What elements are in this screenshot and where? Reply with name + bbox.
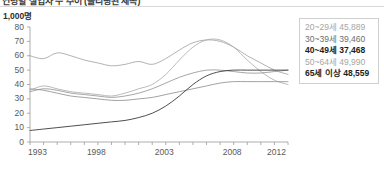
- x-axis-tick-label: 2003: [155, 147, 174, 157]
- legend-item-label: 20~29세: [305, 22, 337, 32]
- title-divider: [0, 6, 384, 7]
- legend-item-label: 65세 이상: [305, 68, 341, 78]
- y-axis-tick-label: 10: [2, 122, 24, 132]
- line-chart-svg: [0, 20, 296, 162]
- legend-item: 40~49세 37,468: [305, 45, 374, 57]
- legend-item-value: 37,468: [339, 45, 365, 55]
- legend-item-label: 30~39세: [305, 34, 337, 44]
- x-axis-tick-label: 1998: [87, 147, 106, 157]
- axis-lines: [30, 27, 288, 142]
- y-axis-tick-label: 50: [2, 65, 24, 75]
- y-axis-tick-label: 0: [2, 137, 24, 147]
- plot-area: 0102030405060708019931998200320082012: [0, 20, 296, 162]
- y-axis-tick-label: 20: [2, 108, 24, 118]
- legend-item-value: 39,460: [339, 34, 365, 44]
- y-axis-tick-label: 60: [2, 50, 24, 60]
- series-line: [30, 39, 288, 96]
- series-line: [30, 40, 288, 75]
- legend-item-value: 49,990: [339, 57, 365, 67]
- y-axis-tick-label: 30: [2, 93, 24, 103]
- legend-item: 30~39세 39,460: [305, 34, 374, 46]
- legend-item: 50~64세 49,990: [305, 57, 374, 69]
- series-line: [30, 70, 288, 98]
- legend-item: 65세 이상 48,559: [305, 68, 374, 80]
- chart-legend: 20~29세 45,88930~39세 39,46040~49세 37,4685…: [299, 18, 379, 84]
- x-axis-tick-label: 2008: [223, 147, 242, 157]
- legend-item-value: 45,889: [339, 22, 365, 32]
- y-axis-tick-label: 40: [2, 79, 24, 89]
- legend-item-label: 50~64세: [305, 57, 337, 67]
- chart-figure: 연령별 실업자 수 추이 (클리핑된 제목) 1,000명 0102030405…: [0, 0, 384, 173]
- series-line: [30, 70, 288, 130]
- y-axis-tick-label: 70: [2, 36, 24, 46]
- legend-item-label: 40~49세: [305, 45, 337, 55]
- x-axis-tick-label: 1993: [28, 147, 47, 157]
- y-axis-tick-label: 80: [2, 22, 24, 32]
- legend-item-value: 48,559: [343, 68, 369, 78]
- x-axis-tick-label: 2012: [267, 147, 286, 157]
- legend-item: 20~29세 45,889: [305, 22, 374, 34]
